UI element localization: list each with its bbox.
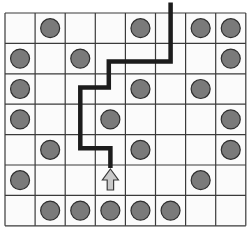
grid-cell <box>216 74 246 104</box>
circle-marker <box>131 201 150 220</box>
grid-cell <box>156 74 186 104</box>
circle-marker <box>41 201 60 220</box>
circle-marker <box>11 80 30 99</box>
circle-marker <box>221 49 240 68</box>
grid-cell <box>35 165 65 195</box>
circle-marker <box>71 201 90 220</box>
circle-marker <box>101 201 120 220</box>
grid-cell <box>95 13 125 43</box>
circle-marker <box>11 110 30 129</box>
circle-marker <box>131 19 150 38</box>
grid-cell <box>65 13 95 43</box>
grid-cell <box>125 43 155 73</box>
grid-cell <box>186 104 216 134</box>
circle-marker <box>11 49 30 68</box>
circle-marker <box>191 19 210 38</box>
circle-marker <box>221 110 240 129</box>
grid-cell <box>156 135 186 165</box>
grid-cell <box>216 165 246 195</box>
grid-cell <box>186 195 216 225</box>
grid-cell <box>65 165 95 195</box>
circle-marker <box>41 19 60 38</box>
circle-marker <box>11 171 30 190</box>
maze-diagram <box>0 0 248 229</box>
grid-cell <box>156 165 186 195</box>
grid-cell <box>156 104 186 134</box>
circle-marker <box>221 19 240 38</box>
grid-cell <box>5 195 35 225</box>
grid-cell <box>5 13 35 43</box>
grid-cell <box>35 74 65 104</box>
circle-marker <box>41 140 60 159</box>
grid-cell <box>35 43 65 73</box>
circle-marker <box>71 49 90 68</box>
circle-marker <box>191 171 210 190</box>
grid-cell <box>186 43 216 73</box>
grid-cell <box>125 104 155 134</box>
circle-marker <box>221 140 240 159</box>
grid-cell <box>5 135 35 165</box>
circle-marker <box>101 110 120 129</box>
grid-cell <box>186 135 216 165</box>
circle-marker <box>131 80 150 99</box>
circle-marker <box>161 201 180 220</box>
circle-marker <box>191 80 210 99</box>
grid-cell <box>35 104 65 134</box>
grid-cell <box>216 195 246 225</box>
circle-marker <box>131 140 150 159</box>
grid-cell <box>125 165 155 195</box>
